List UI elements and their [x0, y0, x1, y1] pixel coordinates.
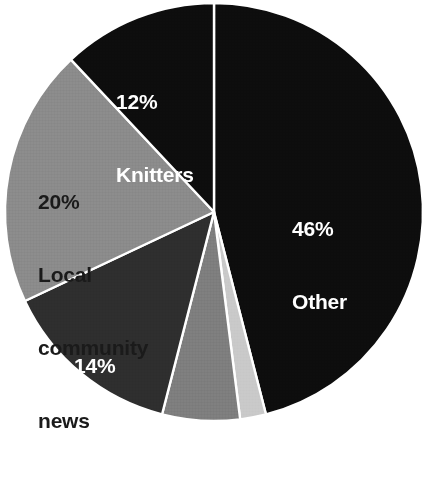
slice-percent-local-community-news: 20%: [38, 190, 148, 214]
slice-percent-other: 46%: [292, 217, 347, 241]
slice-name-quilters: Quilters: [74, 427, 152, 451]
slice-label-quilters: 14% Quilters: [74, 305, 152, 481]
slice-label-soap-carvers: 2% Soap Carvers: [267, 431, 400, 481]
slice-label-other: 46% Other: [292, 168, 347, 363]
pie-chart: 12% Knitters 46% Other 20% Local communi…: [0, 0, 428, 481]
slice-percent-quilters: 14%: [74, 354, 152, 378]
slice-label-golfers: 6% Golfers: [163, 431, 235, 481]
slice-name-other: Other: [292, 290, 347, 314]
slice-name-local-community-news-line1: Local: [38, 263, 148, 287]
slice-percent-knitters: 12%: [116, 90, 194, 114]
